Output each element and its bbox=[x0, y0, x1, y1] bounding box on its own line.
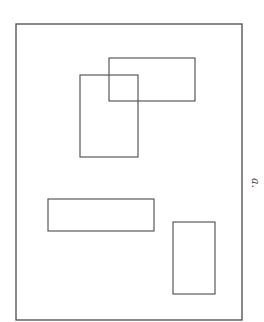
figure-label: a. bbox=[248, 176, 262, 190]
diagram-svg bbox=[0, 0, 264, 322]
bottom-wide-rectangle bbox=[48, 199, 154, 231]
outer-frame bbox=[16, 24, 242, 320]
diagram-canvas: a. bbox=[0, 0, 264, 322]
rectangles-group bbox=[48, 58, 215, 294]
bottom-tall-rectangle bbox=[173, 222, 215, 294]
top-wide-rectangle bbox=[109, 58, 195, 101]
